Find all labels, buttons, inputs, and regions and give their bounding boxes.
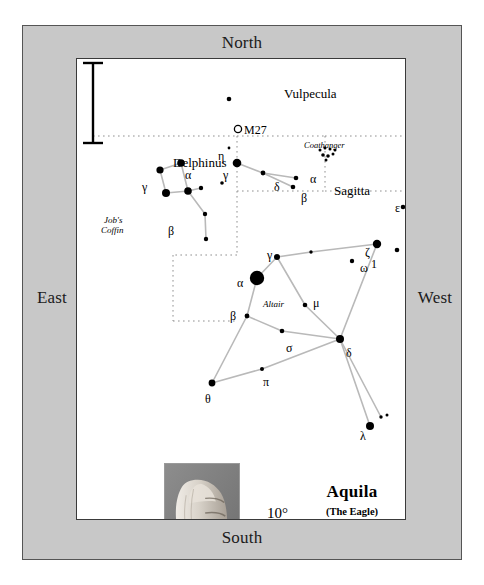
deepsky-label-m27: M27 bbox=[244, 124, 267, 136]
scale-bar-label: 10° bbox=[267, 505, 288, 520]
star-chart-page: North South East West Aquila (The Eagle) bbox=[0, 0, 484, 585]
constellation-title: Aquila bbox=[292, 482, 406, 502]
star-designation-label: λ bbox=[360, 430, 366, 442]
star-designation-label: π bbox=[263, 376, 269, 388]
star-designation-label: ω bbox=[360, 262, 368, 274]
star-designation-label: σ bbox=[286, 342, 292, 354]
star-designation-label: β bbox=[301, 192, 307, 204]
sky-map-panel: Aquila (The Eagle) bbox=[76, 58, 406, 520]
constellation-name-label: Vulpecula bbox=[284, 87, 337, 100]
compass-label-east: East bbox=[26, 288, 78, 308]
star-designation-label: δ bbox=[346, 347, 352, 359]
star-designation-label: δ bbox=[274, 181, 280, 193]
constellation-name-label: Sagitta bbox=[334, 184, 370, 197]
star-designation-label: γ bbox=[142, 181, 147, 193]
asterism-label: Altair bbox=[263, 300, 284, 309]
star-designation-label: ε bbox=[395, 202, 400, 214]
constellation-stick-lines bbox=[160, 163, 381, 426]
asterism-label: Coathanger bbox=[304, 141, 345, 150]
star-designation-label: γ bbox=[223, 169, 228, 181]
star-designation-label: θ bbox=[205, 393, 211, 405]
asterism-label: Coffin bbox=[101, 226, 124, 235]
star-designation-label: ζ bbox=[365, 246, 370, 258]
star-designation-label: γ bbox=[267, 249, 272, 261]
star-designation-label: β bbox=[168, 225, 174, 237]
scale-bar bbox=[77, 59, 123, 147]
hand-scale-photo bbox=[164, 463, 240, 520]
star-designation-label: 1 bbox=[371, 258, 377, 270]
compass-label-west: West bbox=[408, 288, 462, 308]
star-designation-label: α bbox=[185, 169, 191, 181]
fist-hand-icon bbox=[165, 464, 239, 520]
deepsky-marker-m27 bbox=[234, 125, 241, 132]
star-designation-label: α bbox=[237, 277, 243, 289]
constellation-subtitle: (The Eagle) bbox=[292, 506, 406, 517]
star-designation-label: β bbox=[230, 310, 236, 322]
compass-label-north: North bbox=[0, 33, 484, 53]
star-designation-label: μ bbox=[313, 297, 319, 309]
asterism-label: Job's bbox=[104, 216, 122, 225]
star-designation-label: η bbox=[218, 150, 224, 162]
compass-label-south: South bbox=[0, 528, 484, 548]
star-designation-label: α bbox=[310, 173, 316, 185]
